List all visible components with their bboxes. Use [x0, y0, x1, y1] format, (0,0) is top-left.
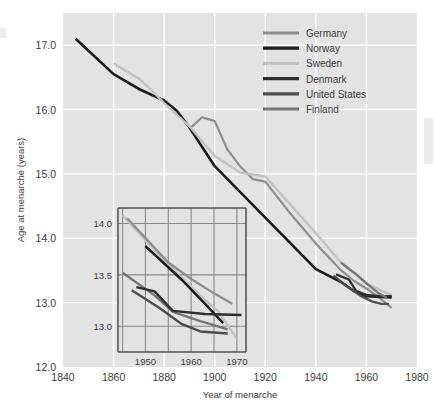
x-axis-tick-labels: 18401860188019001920194019601980	[51, 371, 429, 383]
inset-x-tick-label: 1960	[181, 356, 202, 367]
inset-y-tick-label: 13.0	[94, 321, 113, 332]
inset-x-tick-label: 1970	[226, 356, 247, 367]
y-axis-title: Age at menarche (years)	[15, 138, 26, 243]
y-tick-label: 15.0	[36, 168, 57, 180]
legend-label-sweden: Sweden	[306, 58, 342, 69]
legend-label-finland: Finland	[306, 104, 339, 115]
y-tick-label: 13.0	[36, 297, 57, 309]
x-tick-label: 1980	[405, 371, 429, 383]
x-tick-label: 1960	[355, 371, 379, 383]
x-tick-label: 1900	[203, 371, 227, 383]
x-axis-title: Year of menarche	[203, 389, 278, 400]
inset-x-tick-label: 1950	[135, 356, 156, 367]
x-tick-label: 1920	[254, 371, 278, 383]
legend-label-germany: Germany	[306, 28, 347, 39]
inset-y-tick-label: 13.5	[94, 270, 113, 281]
y-tick-label: 16.0	[36, 104, 57, 116]
inset-x-tick-labels: 195019601970	[135, 356, 248, 367]
y-axis-tick-labels: 12.013.014.015.016.017.0	[36, 39, 57, 373]
x-tick-label: 1880	[152, 371, 176, 383]
legend-label-denmark: Denmark	[306, 74, 348, 85]
y-tick-label: 17.0	[36, 39, 57, 51]
y-tick-label: 12.0	[36, 361, 57, 373]
x-tick-label: 1860	[102, 371, 126, 383]
y-tick-label: 14.0	[36, 232, 57, 244]
x-tick-label: 1940	[304, 371, 328, 383]
menarche-age-figure: 18401860188019001920194019601980 12.013.…	[0, 0, 435, 420]
legend-label-united-states: United States	[306, 89, 366, 100]
inset-y-tick-label: 14.0	[94, 218, 113, 229]
legend-label-norway: Norway	[306, 43, 340, 54]
